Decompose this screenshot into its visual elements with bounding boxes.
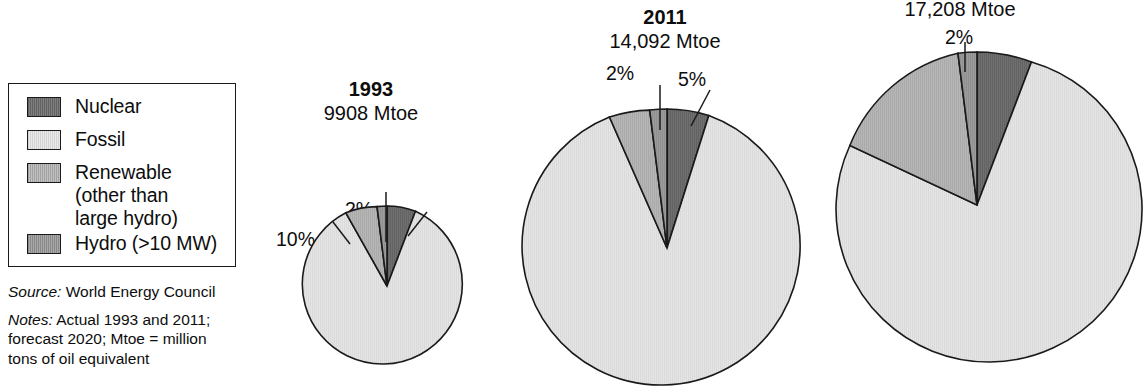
- legend-swatch-hydro-icon: [27, 234, 61, 254]
- pie-title-1993: 1993: [282, 78, 460, 101]
- pie-total-1993: 9908 Mtoe: [282, 102, 460, 125]
- legend-label-fossil: Fossil: [75, 128, 125, 151]
- callout-hydro-2020: 2%: [945, 26, 973, 49]
- pie-total-2011: 14,092 Mtoe: [520, 30, 810, 53]
- notes-line: Notes: Actual 1993 and 2011; forecast 20…: [8, 310, 240, 369]
- legend-label-nuclear: Nuclear: [75, 95, 142, 118]
- notes-label: Notes:: [8, 311, 53, 328]
- pie-title-2011: 2011: [520, 6, 810, 29]
- legend-item-fossil: Fossil: [27, 128, 125, 151]
- notes-block: Source: World Energy Council Notes: Actu…: [8, 282, 240, 376]
- legend-swatch-fossil-icon: [27, 130, 61, 150]
- source-text: World Energy Council: [61, 283, 215, 300]
- callout-nuclear-2011: 5%: [678, 68, 706, 91]
- legend-item-nuclear: Nuclear: [27, 95, 142, 118]
- source-label: Source:: [8, 283, 61, 300]
- legend-label-renewable: Renewable (other than large hydro): [75, 161, 178, 230]
- legend-swatch-renewable-icon: [27, 163, 61, 183]
- pie-chart-2020: 17,208 Mtoe 2% 6% 16% 76%: [830, 0, 1143, 390]
- legend-item-hydro: Hydro (>10 MW): [27, 232, 217, 255]
- source-line: Source: World Energy Council: [8, 282, 240, 302]
- pie-chart-1993: 1993 9908 Mtoe 10% 2% 6% 82%: [282, 70, 492, 390]
- legend-swatch-nuclear-icon: [27, 97, 61, 117]
- callout-hydro-2011: 2%: [606, 62, 634, 85]
- legend-item-renewable: Renewable (other than large hydro): [27, 161, 178, 230]
- pie-total-2020: 17,208 Mtoe: [830, 0, 1090, 21]
- legend-label-hydro: Hydro (>10 MW): [75, 232, 217, 255]
- chart-canvas: Nuclear Fossil Renewable (other than lar…: [0, 0, 1143, 390]
- legend: Nuclear Fossil Renewable (other than lar…: [8, 83, 236, 267]
- pie-chart-2011: 2011 14,092 Mtoe 2% 5% 11% 82%: [520, 0, 820, 390]
